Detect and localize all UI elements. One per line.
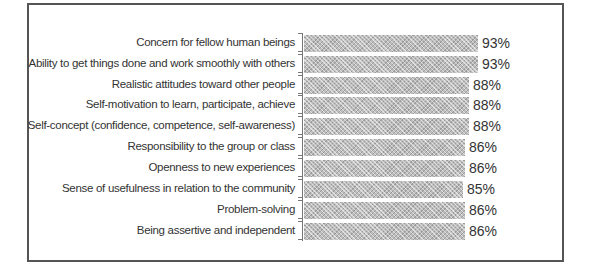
axis-tick: [298, 75, 303, 76]
category-label: Responsibility to the group or class: [127, 140, 295, 152]
axis-tick: [298, 176, 303, 177]
category-label: Openness to new experiences: [148, 161, 295, 173]
bar: [304, 202, 465, 219]
bar: [304, 139, 465, 156]
value-label: 86%: [469, 139, 497, 155]
category-label: Concern for fellow human beings: [136, 36, 295, 48]
value-label: 86%: [469, 202, 497, 218]
axis-tick: [298, 54, 303, 55]
axis-tick: [298, 158, 303, 159]
axis-tick: [298, 137, 303, 138]
category-label: Problem-solving: [217, 203, 295, 215]
axis-tick: [298, 134, 303, 135]
axis-tick: [298, 218, 303, 219]
category-label: Realistic attitudes toward other people: [112, 78, 295, 90]
axis-tick: [298, 95, 303, 96]
bar: [304, 56, 478, 73]
value-label: 88%: [473, 77, 501, 93]
bar: [304, 97, 469, 114]
category-label: Self-concept (confidence, competence, se…: [28, 119, 295, 131]
value-label: 85%: [467, 181, 495, 197]
bar: [304, 77, 469, 94]
value-label: 86%: [469, 160, 497, 176]
value-label: 93%: [482, 35, 510, 51]
category-label: Self-motivation to learn, participate, a…: [86, 98, 295, 110]
category-label: Ability to get things done and work smoo…: [29, 57, 295, 69]
bar: [304, 35, 478, 52]
axis-tick: [298, 72, 303, 73]
category-label: Being assertive and independent: [137, 224, 295, 236]
value-label: 86%: [469, 223, 497, 239]
value-label: 93%: [482, 56, 510, 72]
axis-tick: [298, 221, 303, 222]
bar: [304, 223, 465, 240]
bar: [304, 118, 469, 135]
axis-tick: [298, 155, 303, 156]
value-label: 88%: [473, 118, 501, 134]
axis-tick: [298, 116, 303, 117]
bar: [304, 181, 463, 198]
value-label: 88%: [473, 97, 501, 113]
axis-tick: [298, 33, 303, 34]
axis-tick: [298, 51, 303, 52]
axis-tick: [298, 179, 303, 180]
bar: [304, 160, 465, 177]
axis-tick: [298, 93, 303, 94]
category-label: Sense of usefulness in relation to the c…: [62, 182, 295, 194]
axis-tick: [298, 197, 303, 198]
axis-tick: [298, 239, 303, 240]
axis-tick: [298, 113, 303, 114]
axis-tick: [298, 200, 303, 201]
